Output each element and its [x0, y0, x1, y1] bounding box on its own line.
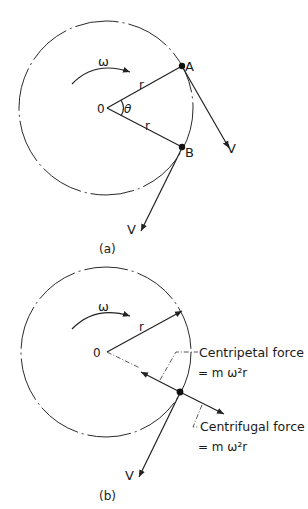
centripetal-force-arrow — [141, 372, 180, 392]
centripetal-force-label: Centripetal force — [199, 345, 304, 360]
dashed-centre-line — [107, 352, 140, 368]
velocity-label: V — [125, 468, 134, 483]
point-b-label: B — [185, 145, 194, 160]
centrifugal-force-arrow — [180, 392, 224, 414]
caption-b: (b) — [99, 489, 116, 503]
point-a-label: A — [185, 59, 194, 74]
radius-vector-b — [107, 311, 182, 352]
radius-label-oa: r — [139, 78, 144, 92]
theta-label: θ — [124, 102, 132, 116]
centripetal-leader-line — [160, 352, 198, 380]
diagram-a: ω r r θ 0 A B V V (a) — [19, 21, 236, 256]
centripetal-force-formula: = m ω²r — [198, 366, 247, 380]
radius-oa — [107, 66, 182, 108]
orbit-circle-a — [19, 21, 193, 195]
omega-rotation-arrow-icon — [72, 68, 130, 84]
center-label-a: 0 — [97, 102, 105, 116]
radius-label-b: r — [139, 320, 144, 334]
velocity-vector-b — [141, 150, 181, 231]
velocity-label-b: V — [127, 222, 136, 237]
diagram-b: ω r 0 V Centripetal force = m ω²r Centri… — [21, 267, 305, 503]
center-label-b: 0 — [93, 346, 101, 360]
velocity-vector — [139, 395, 179, 477]
omega-label: ω — [98, 54, 109, 69]
orbit-circle-b — [21, 267, 191, 437]
mass-point — [177, 389, 184, 396]
caption-a: (a) — [99, 242, 116, 256]
omega-label-b: ω — [98, 299, 109, 314]
omega-rotation-arrow-icon — [72, 313, 130, 329]
velocity-vector-a — [183, 68, 229, 148]
circular-motion-diagram: ω r r θ 0 A B V V (a) ω r 0 — [0, 0, 308, 509]
velocity-label-a: V — [227, 141, 236, 156]
centrifugal-force-label: Centrifugal force — [200, 419, 305, 434]
centrifugal-force-formula: = m ω²r — [198, 440, 247, 454]
radius-label-ob: r — [145, 119, 150, 133]
